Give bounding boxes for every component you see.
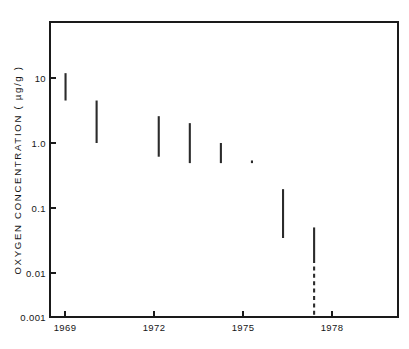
x-tick-label-1969: 1969 — [54, 322, 77, 333]
figure-container: 10 1.0 0.1 0.01 0.001 1969 1972 1975 197… — [0, 0, 409, 349]
y-tick-label-10: 10 — [35, 73, 46, 84]
x-tick-label-1978: 1978 — [321, 322, 344, 333]
chart-background — [0, 0, 409, 349]
y-tick-label-0.01: 0.01 — [26, 268, 46, 279]
y-tick-label-0.1: 0.1 — [32, 203, 46, 214]
x-tick-label-1975: 1975 — [232, 322, 255, 333]
y-axis-title: OXYGEN CONCENTRATION ( µg/g ) — [12, 65, 23, 274]
y-tick-label-1: 1.0 — [32, 138, 46, 149]
oxygen-concentration-chart: 10 1.0 0.1 0.01 0.001 1969 1972 1975 197… — [0, 0, 409, 349]
x-tick-label-1972: 1972 — [143, 322, 166, 333]
y-tick-label-0.001: 0.001 — [20, 312, 46, 323]
